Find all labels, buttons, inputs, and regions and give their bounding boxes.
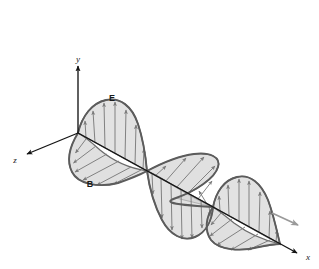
magnetic-field-label: B	[87, 179, 94, 189]
z-axis-label: z	[12, 155, 17, 165]
electric-field-label: E	[109, 93, 115, 103]
x-axis-label: x	[305, 252, 310, 262]
y-axis-label: y	[75, 54, 80, 64]
em-wave-figure: y z x E B	[0, 0, 319, 269]
em-wave-diagram: y z x E B	[0, 0, 319, 269]
